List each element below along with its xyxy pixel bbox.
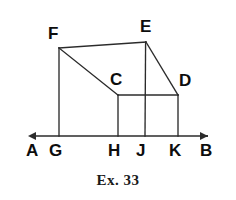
axis-label-j: J — [136, 142, 145, 159]
segment-ed — [146, 42, 178, 95]
axis-label-k: K — [169, 142, 181, 159]
vertex-label-c: C — [110, 71, 122, 88]
geometry-drawing — [0, 0, 236, 200]
axis-label-a: A — [26, 142, 38, 159]
axis-label-h: H — [108, 142, 120, 159]
segment-fe — [59, 42, 146, 48]
vertex-label-e: E — [140, 18, 151, 35]
vertex-label-f: F — [48, 25, 58, 42]
vertex-label-d: D — [179, 72, 191, 89]
segment-je — [145, 42, 146, 136]
axis-label-g: G — [49, 142, 62, 159]
figure-caption: Ex. 33 — [0, 172, 236, 189]
geometry-figure: F E C D A G H J K B Ex. 33 — [0, 0, 236, 200]
axis-label-b: B — [200, 142, 212, 159]
